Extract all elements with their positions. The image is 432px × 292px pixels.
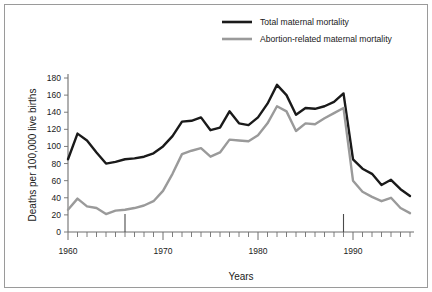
x-tick-label: 1960 [59, 246, 78, 256]
chart-legend: Total maternal mortalityAbortion-related… [222, 17, 393, 44]
y-tick-label: 100 [47, 141, 61, 151]
y-axis-title: Deaths per 100,000 live births [27, 89, 38, 222]
y-tick-label: 180 [47, 73, 61, 83]
y-tick-label: 20 [52, 210, 62, 220]
x-axis-title: Years [228, 271, 253, 282]
chart-axis-labels: 0204060801001201401601801960197019801990… [27, 73, 363, 282]
x-tick-label: 1970 [154, 246, 173, 256]
line-chart: Total maternal mortalityAbortion-related… [0, 0, 432, 292]
y-tick-label: 60 [52, 176, 62, 186]
y-tick-label: 0 [56, 227, 61, 237]
y-tick-label: 140 [47, 107, 61, 117]
y-tick-label: 120 [47, 124, 61, 134]
x-tick-label: 1990 [344, 246, 363, 256]
chart-figure: Total maternal mortalityAbortion-related… [0, 0, 432, 292]
y-tick-label: 160 [47, 90, 61, 100]
legend-label-0: Total maternal mortality [260, 17, 350, 27]
y-tick-label: 80 [52, 159, 62, 169]
chart-series [68, 85, 410, 214]
chart-axes [64, 74, 414, 240]
y-tick-label: 40 [52, 193, 62, 203]
x-tick-label: 1980 [249, 246, 268, 256]
legend-label-1: Abortion-related maternal mortality [260, 34, 393, 44]
